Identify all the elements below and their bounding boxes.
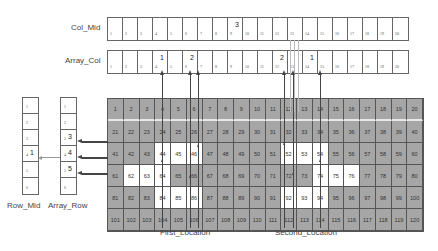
cell-index: 2 [26,120,28,125]
grid-cell: 65 [171,165,187,187]
cell-index: 3 [140,64,142,69]
array-row-cell: 2 [61,114,76,130]
cell-marker: 2 [190,54,194,61]
col-mid-cell: 4 [153,18,168,40]
cell-index: 11 [260,31,264,36]
col-mid-cell: 18 [363,18,378,40]
grid-cell: 83 [140,187,156,209]
array-col-cell: 17 [348,51,363,73]
grid-cell: 98 [376,187,392,209]
grid-cell: 39 [392,121,408,143]
cell-index: 5 [64,168,66,173]
cell-marker: 1 [310,54,314,61]
cell-index: 7 [200,64,202,69]
grid-cell: 68 [218,165,234,187]
grid-cell: 71 [266,165,282,187]
grid-cell: 40 [407,121,423,143]
grid-cell: 17 [360,99,376,121]
marker-arrow-icon [189,175,191,178]
cell-index: 20 [395,31,399,36]
cell-marker: 3 [235,21,239,28]
row-arrow-line [82,157,108,159]
second-location-label: Second_Location [275,228,337,237]
array-col-cell: 8 [213,51,228,73]
grid-cell: 95 [329,187,345,209]
first-location-line [162,74,163,228]
cell-marker: 1 [160,54,164,61]
row-mid-connector-line [42,157,60,158]
col-mid-cell: 19 [378,18,393,40]
array-col-cell: 9 [228,51,243,73]
grid-cell: 117 [360,209,376,231]
grid-cell: 87 [203,187,219,209]
cell-index: 1 [64,104,66,109]
grid-cell: 1 [108,99,124,121]
col-mid-connector-line [298,40,299,112]
grid-cell: 88 [218,187,234,209]
col-mid-label: Col_Mid [71,23,100,32]
cell-index: 3 [26,136,28,141]
cell-index: 1 [26,104,28,109]
marker-arrow-icon [161,159,163,162]
grid-cell: 73 [297,165,313,187]
array-row-cell: 1 [61,98,76,114]
row-mid-cell: 41 [23,146,38,162]
grid-cell: 30 [250,121,266,143]
grid-cell: 69 [234,165,250,187]
array-col-cell: 19 [378,51,393,73]
grid-cell: 63 [140,165,156,187]
grid-cell: 22 [124,121,140,143]
cell-index: 3 [64,136,66,141]
cell-index: 13 [290,31,294,36]
array-col-cell: 5 [168,51,183,73]
col-mid-cell: 20 [393,18,408,40]
cell-index: 17 [350,31,354,36]
arrow-up-icon [196,70,200,75]
cell-index: 19 [380,31,384,36]
grid-cell: 36 [344,121,360,143]
row-mid-label: Row_Mid [7,201,40,210]
array-col-array: 12341562789101112213141151617181920 [107,50,409,74]
array-col-cell: 141 [303,51,318,73]
cell-index: 8 [215,31,217,36]
col-mid-connector-line [294,40,295,112]
array-row-cell: 55 [61,162,76,178]
grid-cell: 16 [344,99,360,121]
grid-cell: 23 [140,121,156,143]
col-mid-cell: 13 [288,18,303,40]
row-mid-cell: 3 [23,130,38,146]
cell-index: 10 [245,31,249,36]
array-col-cell: 20 [393,51,408,73]
cell-index: 11 [260,64,264,69]
cell-index: 9 [230,64,232,69]
col-mid-cell: 12 [273,18,288,40]
cell-index: 20 [395,64,399,69]
cell-index: 16 [335,31,339,36]
grid-cell: 99 [392,187,408,209]
grid-cell: 91 [266,187,282,209]
grid-cell: 5 [171,99,187,121]
first-location-line [190,74,191,228]
grid-cell: 13 [297,99,313,121]
cell-index: 6 [64,185,66,190]
row-mid-cell: 6 [23,178,38,194]
grid-cell: 60 [407,143,423,165]
grid-cell: 96 [344,187,360,209]
grid-cell: 27 [203,121,219,143]
cell-index: 3 [140,31,142,36]
array-col-cell: 16 [333,51,348,73]
array-col-cell: 7 [198,51,213,73]
row-mid-array: 1234156 [22,97,39,195]
array-row-cell: 6 [61,178,76,194]
grid-cell: 37 [360,121,376,143]
arrow-up-icon [282,70,286,75]
cell-index: 4 [155,31,157,36]
first-location-line [198,74,199,228]
cell-index: 5 [170,64,172,69]
array-col-cell: 3 [138,51,153,73]
cell-index: 14 [305,31,309,36]
grid-cell: 62 [124,165,140,187]
row-arrow-line [82,141,108,143]
cell-marker: 4 [68,149,72,156]
grid-cell: 24 [155,121,171,143]
